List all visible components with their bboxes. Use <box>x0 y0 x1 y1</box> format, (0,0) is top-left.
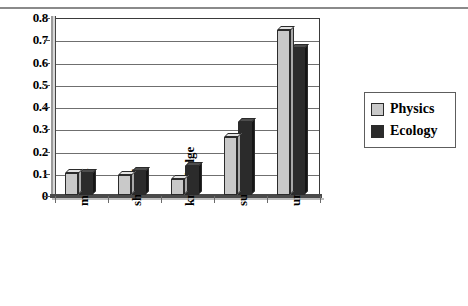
bar-knowledge-physics <box>171 179 184 195</box>
y-tick-label: 0.5 <box>4 77 48 93</box>
x-tick-mark <box>267 196 268 203</box>
bar-side <box>251 118 255 195</box>
chart-title <box>276 0 466 6</box>
bar-face <box>65 173 78 195</box>
x-tick-mark <box>320 196 321 203</box>
legend-label-ecology: Ecology <box>390 124 437 138</box>
legend-item-physics: Physics <box>371 98 455 120</box>
bar-side <box>304 44 308 195</box>
legend-swatch-physics <box>371 103 384 116</box>
bar-side <box>290 26 294 195</box>
bar-matrix-physics <box>65 173 78 195</box>
y-tick-label: 0.2 <box>4 144 48 160</box>
bar-side <box>237 133 241 195</box>
x-tick-mark <box>161 196 162 203</box>
bar-side <box>198 162 202 195</box>
bar-face <box>277 30 290 195</box>
legend-swatch-ecology <box>371 125 384 138</box>
y-tick-label: 0.8 <box>4 10 48 26</box>
y-axis-labels: 00.10.20.30.40.50.60.70.8 <box>0 0 48 306</box>
y-tick-label: 0.4 <box>4 99 48 115</box>
bar-face <box>224 137 237 195</box>
bar-face <box>171 179 184 195</box>
y-tick-label: 0 <box>4 188 48 204</box>
x-tick-mark <box>55 196 56 203</box>
y-tick-label: 0.3 <box>4 121 48 137</box>
bar-chart: 00.10.20.30.40.50.60.70.8 matrixsharedkn… <box>0 0 468 306</box>
y-tick-label: 0.6 <box>4 55 48 71</box>
bar-shared-physics <box>118 175 131 195</box>
y-tick-label: 0.7 <box>4 32 48 48</box>
x-tick-mark <box>214 196 215 203</box>
plot-area <box>55 18 320 196</box>
bar-unexplained-physics <box>277 30 290 195</box>
bar-sum-physics <box>224 137 237 195</box>
header-rule <box>0 7 468 9</box>
legend-label-physics: Physics <box>390 102 434 116</box>
bar-face <box>118 175 131 195</box>
legend: Physics Ecology <box>364 92 456 148</box>
y-tick-label: 0.1 <box>4 166 48 182</box>
legend-item-ecology: Ecology <box>371 120 455 142</box>
y-axis-line <box>50 16 56 198</box>
bars-layer <box>56 19 319 195</box>
x-tick-mark <box>108 196 109 203</box>
